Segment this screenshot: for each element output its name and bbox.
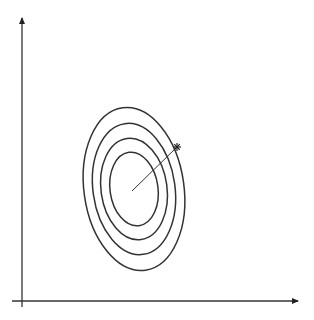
contour-diagram xyxy=(0,0,314,320)
star-marker-icon xyxy=(173,143,181,151)
diagram-svg xyxy=(0,0,314,320)
